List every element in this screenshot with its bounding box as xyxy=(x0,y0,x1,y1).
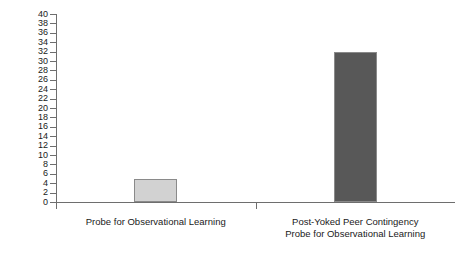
y-axis-tick-label: 10 xyxy=(26,151,48,160)
y-axis-tick-label: 30 xyxy=(26,57,48,66)
y-axis-tick-label-text: 24 xyxy=(28,85,48,94)
y-axis-tick-label-text: 0 xyxy=(28,198,48,207)
y-axis-tick-label-text: 38 xyxy=(28,19,48,28)
bar xyxy=(334,52,377,202)
y-axis-tick-label-text: 8 xyxy=(28,160,48,169)
y-axis-tick-label-text: 2 xyxy=(28,188,48,197)
y-axis-tick-label: 0 xyxy=(26,198,48,207)
y-axis-tick-label-text: 30 xyxy=(28,57,48,66)
y-axis-tick-label-text: 34 xyxy=(28,38,48,47)
y-axis-tick-label: 2 xyxy=(26,188,48,197)
y-axis-tick-label: 20 xyxy=(26,104,48,113)
y-axis-tick-label: 12 xyxy=(26,141,48,150)
y-axis-tick-label-text: 26 xyxy=(28,75,48,84)
bar xyxy=(134,179,177,203)
y-axis-tick-label: 16 xyxy=(26,122,48,131)
y-axis-line xyxy=(56,14,57,203)
y-axis-tick-label-text: 22 xyxy=(28,94,48,103)
y-axis-tick-label-text: 36 xyxy=(28,28,48,37)
y-axis-tick-label: 40 xyxy=(26,10,48,19)
y-axis-tick-label: 18 xyxy=(26,113,48,122)
y-axis-tick-label: 26 xyxy=(26,75,48,84)
y-axis-tick-label-text: 10 xyxy=(28,151,48,160)
y-axis-tick-label: 32 xyxy=(26,47,48,56)
x-axis-tick xyxy=(256,203,257,209)
x-axis-category-label: Probe for Observational Learning xyxy=(46,216,266,228)
y-axis-tick-label: 28 xyxy=(26,66,48,75)
y-axis-tick-label-text: 20 xyxy=(28,104,48,113)
y-axis-tick-label-text: 16 xyxy=(28,122,48,131)
y-axis-tick-label: 36 xyxy=(26,28,48,37)
y-axis-tick-label: 14 xyxy=(26,132,48,141)
y-axis-tick-label: 38 xyxy=(26,19,48,28)
bar-chart-figure: Number of Correct Textual Responses 0246… xyxy=(0,0,470,257)
y-axis-tick-label-text: 12 xyxy=(28,141,48,150)
y-axis-tick-label-text: 6 xyxy=(28,169,48,178)
y-axis-tick-label-text: 32 xyxy=(28,47,48,56)
y-axis-tick-label-text: 40 xyxy=(28,10,48,19)
y-axis-tick-label-text: 18 xyxy=(28,113,48,122)
y-axis-tick-label: 34 xyxy=(26,38,48,47)
y-axis-tick-label-text: 14 xyxy=(28,132,48,141)
x-axis-tick xyxy=(56,203,57,209)
y-axis-tick-label: 4 xyxy=(26,179,48,188)
y-axis-tick-label: 22 xyxy=(26,94,48,103)
y-axis-tick-label-text: 28 xyxy=(28,66,48,75)
y-axis-tick-label-text: 4 xyxy=(28,179,48,188)
y-axis-tick-label: 6 xyxy=(26,169,48,178)
y-axis-tick-label: 8 xyxy=(26,160,48,169)
y-axis-tick-label: 24 xyxy=(26,85,48,94)
x-axis-category-label: Post-Yoked Peer Contingency Probe for Ob… xyxy=(245,216,465,239)
